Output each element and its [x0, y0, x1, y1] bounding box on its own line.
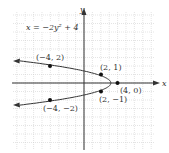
y-axis-label: y — [79, 5, 85, 14]
lower-arrow-icon — [13, 103, 20, 108]
label-2-1: (2, 1) — [100, 63, 122, 72]
label-neg4-neg2: (−4, −2) — [43, 104, 78, 113]
label-neg4-2: (−4, 2) — [36, 53, 64, 62]
x-axis-arrow-icon — [153, 81, 160, 86]
equation-label: x = −2y² + 4 — [26, 23, 79, 32]
point-neg4-neg2 — [48, 98, 52, 102]
label-4-0: (4, 0) — [120, 86, 142, 95]
point-4-0 — [116, 81, 120, 85]
point-neg4-2 — [48, 64, 52, 68]
upper-arrow-icon — [13, 59, 20, 64]
label-2-neg1: (2, −1) — [99, 95, 127, 104]
point-2-1 — [99, 73, 103, 77]
parabola-graph: x y x = −2y² + 4 (−4, 2) (2, 1) (4, 0) (… — [0, 0, 169, 153]
point-2-neg1 — [99, 90, 103, 94]
x-axis-label: x — [162, 79, 167, 88]
